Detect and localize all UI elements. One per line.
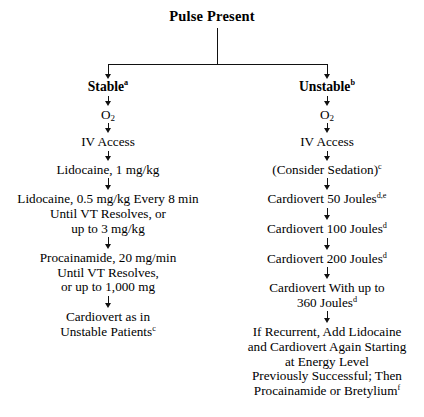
flow-node: Lidocaine, 0.5 mg/kg Every 8 minUntil VT… [2,192,214,236]
arrow-head [105,128,111,133]
footnote-marker: b [350,78,355,87]
flow-arrow-down-icon [324,122,331,135]
arrow-head [324,274,330,279]
arrow-head [105,303,111,308]
flow-node: O2 [221,108,424,123]
node-line: Cardiovert as in [2,310,214,325]
flow-node: Cardiovert as inUnstable Patientsc [2,310,214,339]
arrow-head [105,185,111,190]
footnote-marker: f [397,382,400,391]
node-line: (Consider Sedation)c [221,163,424,178]
flow-arrow-down-icon [105,295,112,310]
node-line: Cardiovert 200 Joulesd [221,252,424,267]
footnote-marker: d [353,294,357,303]
node-line: up to 3 mg/kg [2,222,214,237]
arrow-head [324,215,330,220]
arrow-head [105,244,111,249]
footnote-marker: c [378,161,382,170]
node-line: Until VT Resolves, [2,266,214,281]
flow-node: Cardiovert With up to360 Joulesd [221,281,424,310]
arrow-head [105,156,111,161]
footnote-marker: d,e [377,191,387,200]
flow-node: IV Access [2,135,214,150]
flow-node: Procainamide, 20 mg/minUntil VT Resolves… [2,251,214,295]
flow-arrow-down-icon [105,122,112,135]
node-line: Previously Successful; Then [221,369,424,384]
node-line: O2 [221,108,424,123]
flow-node: If Recurrent, Add Lidocaineand Cardiover… [221,325,424,398]
flow-arrow-down-icon [105,150,112,163]
arrow-head [324,318,330,323]
branch-heading-label: Stable [88,79,124,94]
flow-node: Cardiovert 200 Joulesd [221,252,424,267]
arrow-head [324,245,330,250]
footnote-marker: d [383,221,387,230]
node-line: Cardiovert With up to [221,281,424,296]
node-line: and Cardiovert Again Starting [221,340,424,355]
arrow-head [105,101,111,106]
node-line: at Energy Level [221,355,424,370]
branch-column-stable: StableaO2IV AccessLidocaine, 1 mg/kgLido… [2,80,214,339]
flow-node: Cardiovert 100 Joulesd [221,222,424,237]
flow-arrow-down-icon [324,177,331,192]
branch-heading-stable: Stablea [2,80,214,95]
flow-arrow-down-icon [105,236,112,251]
connector-horizontal-bar [108,64,328,65]
flow-arrow-down-icon [324,237,331,252]
flow-arrow-down-icon [105,177,112,192]
flow-arrow-down-icon [324,266,331,281]
node-line: Lidocaine, 0.5 mg/kg Every 8 min [2,192,214,207]
node-line: Procainamide or Bretyliumf [221,384,424,399]
node-line: Unstable Patientsc [2,325,214,340]
flow-arrow-down-icon [324,310,331,325]
branch-heading-unstable: Unstableb [221,80,424,95]
node-line: Procainamide, 20 mg/min [2,251,214,266]
arrow-head [324,101,330,106]
node-line: Cardiovert 100 Joulesd [221,222,424,237]
node-line: IV Access [2,135,214,150]
branch-column-unstable: UnstablebO2IV Access(Consider Sedation)c… [221,80,424,398]
node-line: or up to 1,000 mg [2,280,214,295]
arrow-head [324,156,330,161]
node-line: Cardiovert 50 Joulesd,e [221,192,424,207]
node-line: Until VT Resolves, or [2,207,214,222]
flow-node: (Consider Sedation)c [221,163,424,178]
flow-node: IV Access [221,135,424,150]
arrow-head [324,185,330,190]
node-line: O2 [2,108,214,123]
flow-arrow-down-icon [324,150,331,163]
arrow-head [324,128,330,133]
flow-arrow-down-icon [324,207,331,222]
flow-node: Cardiovert 50 Joulesd,e [221,192,424,207]
flowchart-canvas: Pulse Present StableaO2IV AccessLidocain… [0,0,424,417]
node-line: Lidocaine, 1 mg/kg [2,163,214,178]
branch-heading-label: Unstable [299,79,350,94]
node-line: IV Access [221,135,424,150]
node-line: 360 Joulesd [221,296,424,311]
footnote-marker: c [152,323,156,332]
footnote-marker: d [383,250,387,259]
node-line: If Recurrent, Add Lidocaine [221,325,424,340]
flow-node: O2 [2,108,214,123]
chart-title: Pulse Present [0,8,424,25]
flow-arrow-down-icon [105,95,112,108]
connector-stem [217,28,218,65]
flow-arrow-down-icon [324,95,331,108]
flow-node: Lidocaine, 1 mg/kg [2,163,214,178]
footnote-marker: a [124,78,128,87]
